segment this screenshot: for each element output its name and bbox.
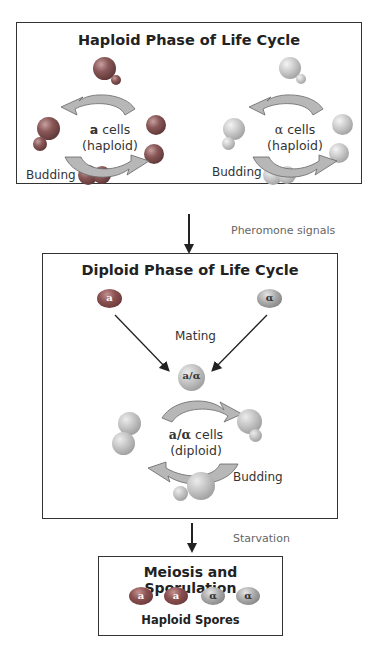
- a-cell-bud-left: [33, 137, 47, 151]
- alpha-cells-sub: (haploid): [260, 138, 330, 153]
- alpha-cells-label-text: cells: [283, 122, 315, 137]
- diploid-cell-bottom-bud: [173, 486, 188, 501]
- haploid-phase-box: Haploid Phase of Life Cycle a cells (hap…: [16, 22, 362, 184]
- a-cells-label-text: cells: [98, 122, 130, 137]
- haploid-spores-caption: Haploid Spores: [99, 613, 282, 627]
- diploid-cells-label-bold: a/α: [169, 427, 191, 442]
- sporulation-box: Meiosis and Sporulation a a α α Haploid …: [98, 556, 283, 636]
- diploid-cells-label: a/α cells: [156, 427, 236, 442]
- diploid-budding-label: Budding: [233, 470, 283, 484]
- spore-1: a: [129, 587, 153, 605]
- starvation-label: Starvation: [233, 532, 290, 545]
- diploid-phase-box: Diploid Phase of Life Cycle a α Mating a…: [42, 253, 338, 519]
- fused-diploid-cell-label: a/α: [178, 370, 205, 381]
- spore-3: α: [201, 587, 225, 605]
- diploid-cell-left-2: [112, 432, 135, 455]
- alpha-cell-bud-top: [296, 74, 306, 84]
- diploid-cells-sub: (diploid): [156, 443, 236, 458]
- pheromone-arrow-line: [188, 214, 190, 248]
- alpha-cells-label: α cells: [260, 122, 330, 137]
- haploid-phase-title: Haploid Phase of Life Cycle: [17, 32, 361, 48]
- alpha-cell-bud-left: [222, 137, 235, 150]
- pheromone-signals-label: Pheromone signals: [231, 224, 335, 237]
- a-cells-sub: (haploid): [75, 138, 145, 153]
- a-cells-label-bold: a: [90, 122, 98, 137]
- alpha-cells-label-bold: α: [275, 122, 283, 137]
- diploid-cells-label-text: cells: [191, 427, 223, 442]
- spore-4: α: [236, 587, 260, 605]
- starvation-arrow-head: [187, 543, 197, 553]
- diploid-cell-right-bud: [249, 429, 262, 442]
- diploid-cell-bottom: [187, 472, 215, 500]
- mating-label: Mating: [175, 329, 216, 343]
- a-cycle-budding-label: Budding: [26, 168, 76, 182]
- alpha-cycle-budding-label: Budding: [212, 165, 262, 179]
- a-cell-bud-top: [111, 75, 121, 85]
- a-cells-label: a cells: [75, 122, 145, 137]
- spore-2: a: [164, 587, 188, 605]
